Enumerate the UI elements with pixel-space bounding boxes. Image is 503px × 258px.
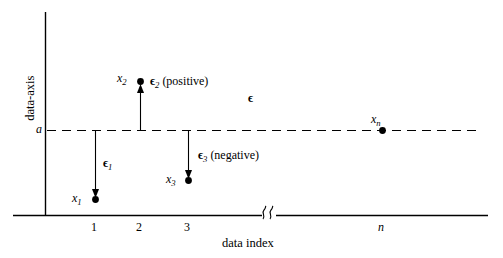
- figure-container: a x1 x2 x3 xn ϵ1 ϵ2 (positive) ϵ3 (negat…: [0, 0, 503, 258]
- data-point-x2: [137, 78, 144, 85]
- residual-arrow-eps3: [185, 131, 192, 179]
- point-label-xn: xn: [371, 113, 381, 128]
- residual-label-eps3: ϵ3 (negative): [198, 149, 259, 164]
- point-label-x2: x2: [117, 72, 127, 87]
- x-tick-label-2: 2: [136, 221, 142, 233]
- x-axis-title: data index: [222, 237, 274, 250]
- x-tick-label-3: 3: [184, 221, 190, 233]
- axis-break-icon: [263, 206, 273, 219]
- x-tick-label-n: n: [378, 221, 384, 233]
- residual-arrow-eps2: [137, 84, 144, 130]
- y-axis-title: data-axis: [24, 63, 37, 133]
- residual-label-eps-bare: ϵ: [248, 92, 253, 104]
- plot-canvas: [0, 0, 503, 258]
- point-label-x3: x3: [166, 173, 176, 188]
- residual-label-eps2: ϵ2 (positive): [150, 75, 208, 90]
- residual-arrow-eps1: [92, 131, 99, 198]
- residual-label-eps1: ϵ1: [103, 157, 112, 172]
- threshold-label-a: a: [36, 123, 42, 135]
- data-point-x3: [185, 177, 192, 184]
- point-label-x1: x1: [72, 192, 82, 207]
- x-tick-label-1: 1: [91, 221, 97, 233]
- data-point-x1: [92, 196, 99, 203]
